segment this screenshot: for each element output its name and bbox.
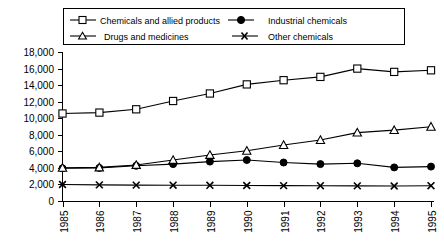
y-tick-label-10000: 10,000 [23,113,54,124]
data-point-1994 [391,68,398,75]
line-chart-figure: Chemicals and allied products Industrial… [0,0,444,249]
x-tick-label-1993: 1993 [353,210,364,233]
y-axis-ticks [58,53,63,202]
data-point-1990 [243,81,250,88]
legend-label-2: Drugs and medicines [104,32,189,42]
data-point-1987 [133,106,140,113]
x-tick-label-1987: 1987 [132,210,143,233]
data-point-1995 [427,123,435,131]
data-point-1993 [354,65,361,72]
data-point-1994 [391,164,398,171]
y-axis: 18,000 16,000 14,000 12,000 10,000 8,000… [23,47,62,207]
chart-canvas: Chemicals and allied products Industrial… [0,0,444,249]
x-tick-label-1988: 1988 [169,210,180,233]
x-tick-label-1991: 1991 [280,210,291,233]
y-tick-label-0: 0 [48,196,54,207]
data-point-1989 [206,90,213,97]
filled-circle-icon [237,16,244,23]
y-tick-label-14000: 14,000 [23,80,54,91]
legend-label-1: Industrial chemicals [268,16,348,26]
x-tick-label-1994: 1994 [390,210,401,233]
y-axis-tick-labels: 18,000 16,000 14,000 12,000 10,000 8,000… [23,47,54,207]
x-tick-label-1985: 1985 [59,210,70,233]
data-point-1990 [243,157,250,164]
y-tick-label-18000: 18,000 [23,47,54,58]
data-point-1993 [354,160,361,167]
y-tick-label-16000: 16,000 [23,64,54,75]
x-axis-ticks [64,202,432,207]
x-tick-label-1989: 1989 [206,210,217,233]
chart-series-layer [58,65,435,189]
data-point-1992 [317,73,324,80]
series-line [63,69,432,114]
y-tick-label-8000: 8,000 [29,130,54,141]
open-square-icon [79,17,86,24]
legend-label-3: Other chemicals [268,32,334,42]
data-point-1985 [59,110,66,117]
y-tick-label-2000: 2,000 [29,179,54,190]
data-point-1991 [280,77,287,84]
data-point-1995 [427,67,434,74]
x-tick-label-1990: 1990 [243,210,254,233]
x-tick-label-1986: 1986 [95,210,106,233]
data-point-1988 [170,97,177,104]
x-tick-label-1995: 1995 [427,210,438,233]
series-industrial-chemicals [59,157,435,172]
data-point-1991 [280,159,287,166]
y-tick-label-12000: 12,000 [23,97,54,108]
legend-label-0: Chemicals and allied products [100,16,221,26]
y-tick-label-6000: 6,000 [29,146,54,157]
series-chemicals-and-allied-products [59,65,435,117]
series-other-chemicals [59,181,434,189]
chart-legend: Chemicals and allied products Industrial… [64,9,405,45]
x-axis: 1985198619871988198919901991199219931994… [59,202,438,233]
data-point-1986 [96,109,103,116]
data-point-1995 [428,163,435,170]
data-point-1989 [206,158,213,165]
x-axis-tick-labels: 1985198619871988198919901991199219931994… [59,210,438,233]
x-tick-label-1992: 1992 [316,210,327,233]
y-tick-label-4000: 4,000 [29,163,54,174]
data-point-1992 [317,161,324,168]
